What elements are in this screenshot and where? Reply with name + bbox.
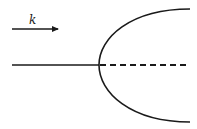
parabolic-diagram: k — [0, 0, 197, 129]
wave-vector-label: k — [29, 13, 36, 27]
